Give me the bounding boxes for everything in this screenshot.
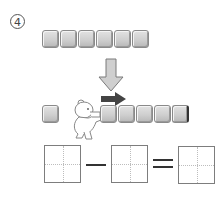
block [154, 105, 171, 123]
answer-box-3[interactable] [178, 146, 215, 184]
minus-sign-icon [86, 164, 106, 166]
block [100, 105, 117, 123]
equals-sign-icon [153, 159, 173, 169]
block [96, 30, 113, 48]
question-number: 4 [10, 14, 25, 29]
down-arrow-icon [98, 58, 124, 92]
guide-line [179, 165, 214, 166]
bear-character-icon [70, 98, 104, 140]
answer-box-2[interactable] [111, 145, 148, 183]
block [114, 30, 131, 48]
block [42, 105, 59, 123]
right-arrow-icon [101, 92, 127, 106]
guide-line [112, 164, 147, 165]
block [60, 30, 77, 48]
block [78, 30, 95, 48]
right-block-group [100, 105, 189, 123]
top-block-row [42, 30, 149, 48]
block [132, 30, 149, 48]
guide-line [45, 164, 80, 165]
answer-box-1[interactable] [44, 145, 81, 183]
block [118, 105, 135, 123]
block [172, 105, 189, 123]
block [42, 30, 59, 48]
block [136, 105, 153, 123]
left-block-group [42, 105, 59, 123]
